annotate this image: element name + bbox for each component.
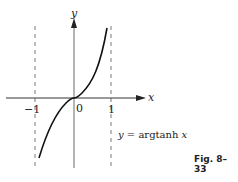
tick-0: 0: [76, 102, 83, 115]
argtanh-curve: [39, 28, 107, 158]
x-axis-label: x: [148, 91, 154, 104]
figure: y x −1 0 1 y = argtanh x Fig. 8–33: [0, 0, 238, 182]
figure-caption: Fig. 8–33: [194, 154, 238, 174]
x-axis-arrow-icon: [136, 95, 146, 101]
function-x: x: [182, 129, 188, 140]
tick-1: 1: [108, 103, 115, 116]
tick-neg1: −1: [24, 103, 40, 116]
y-axis-label: y: [71, 7, 77, 20]
function-label: y = argtanh x: [118, 129, 187, 140]
function-eq: = argtanh: [124, 129, 182, 140]
